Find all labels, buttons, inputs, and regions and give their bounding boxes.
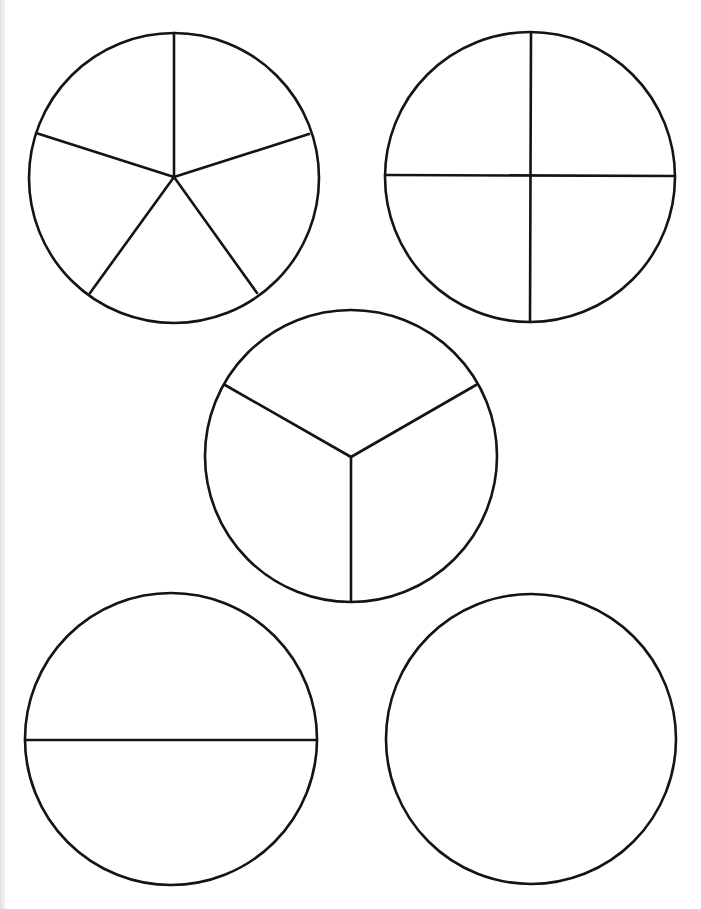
divider-line (530, 33, 531, 322)
fraction-circles-sheet (0, 0, 701, 909)
circle-whole (386, 594, 676, 884)
circle-fifths (29, 33, 319, 323)
circle-halves (25, 593, 317, 885)
divider-line (385, 175, 675, 176)
circle-outline (386, 594, 676, 884)
circle-thirds (205, 310, 497, 602)
circle-quarters (385, 32, 675, 322)
